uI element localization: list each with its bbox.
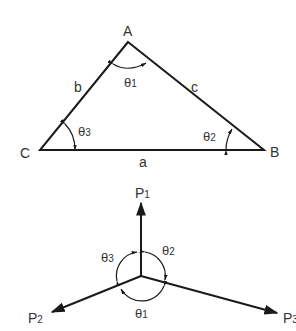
vertex-label-a: A bbox=[123, 23, 133, 39]
side-label-c: c bbox=[191, 79, 198, 95]
force-angle-label-theta3: θ3 bbox=[101, 250, 114, 265]
vector-p3 bbox=[141, 276, 277, 313]
angle-arc-b bbox=[226, 129, 232, 150]
vector-label-p3: P3 bbox=[283, 310, 296, 326]
angle-arc-a bbox=[113, 63, 146, 68]
angle-label-theta3: θ3 bbox=[78, 124, 91, 139]
force-angle-label-theta1: θ1 bbox=[135, 306, 148, 321]
force-triangle-diagram: A B C a b c θ1 θ2 θ3 P1 bbox=[0, 0, 296, 331]
vector-label-p2: P2 bbox=[28, 310, 43, 326]
force-angle-label-theta2: θ2 bbox=[162, 243, 175, 258]
angle-label-theta1: θ1 bbox=[124, 75, 137, 90]
side-label-b: b bbox=[74, 79, 82, 95]
side-label-a: a bbox=[139, 154, 147, 170]
triangle: A B C a b c θ1 θ2 θ3 bbox=[20, 23, 279, 170]
angle-arc-c bbox=[65, 124, 75, 150]
force-angle-arc-theta1 bbox=[121, 286, 164, 301]
vector-p2 bbox=[52, 276, 141, 312]
force-diagram: P1 P2 P3 θ1 θ2 θ3 bbox=[28, 185, 296, 326]
triangle-outline bbox=[40, 42, 264, 150]
vertex-label-b: B bbox=[270, 144, 279, 160]
vertex-label-c: C bbox=[20, 145, 30, 161]
vector-label-p1: P1 bbox=[135, 185, 150, 201]
force-angle-arc-theta3 bbox=[116, 252, 137, 281]
angle-label-theta2: θ2 bbox=[203, 129, 216, 144]
